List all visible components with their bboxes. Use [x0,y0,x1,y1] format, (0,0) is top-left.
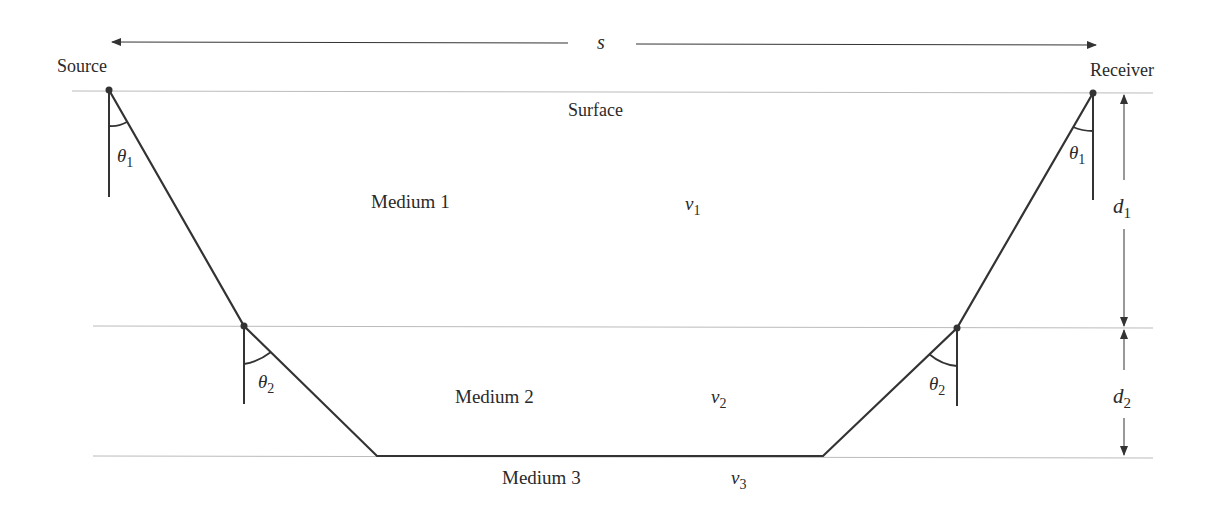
surface-label: Surface [568,100,623,120]
receiver-label: Receiver [1090,60,1154,80]
theta2-right-label: θ2 [929,373,945,398]
d1-label: d1 [1113,194,1131,221]
medium-1-label: Medium 1 [371,191,450,212]
angle-arc-theta2-right [929,354,957,366]
receiver-point [1090,90,1097,97]
theta2-left-label: θ2 [258,371,274,396]
angle-arc-theta2-left [244,352,271,364]
d2-label: d2 [1113,384,1131,411]
refraction-diagram: s Source Receiver Surface θ1 θ2 θ2 θ1 Me… [0,0,1230,513]
source-point [106,87,113,94]
distance-arrow-left [112,42,568,43]
medium-3-velocity: v3 [731,467,746,492]
medium-3-label: Medium 3 [502,467,581,488]
medium-2-velocity: v2 [711,386,726,411]
medium-2-label: Medium 2 [455,386,534,407]
theta1-right-label: θ1 [1069,142,1085,167]
refraction-point-left [241,323,248,330]
distance-arrow-right [636,44,1096,45]
interface-1-2 [93,326,1153,328]
refraction-point-right [954,325,961,332]
angle-arc-theta1-right [1073,127,1093,131]
angle-arc-theta1-left [109,122,127,126]
source-label: Source [57,56,107,76]
medium-1-velocity: v1 [685,193,700,218]
surface-line [72,91,1153,93]
distance-label: s [597,31,605,53]
theta1-left-label: θ1 [117,145,133,170]
ray-path [109,90,1093,456]
